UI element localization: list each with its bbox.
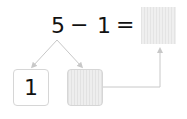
equals-sign: = <box>116 14 134 36</box>
operand-one: 1 <box>97 15 111 37</box>
left-part-value: 1 <box>14 70 48 106</box>
left-part-box: 1 <box>13 69 49 106</box>
operand-five: 5 <box>51 15 65 37</box>
minus-sign: − <box>70 14 88 36</box>
right-part-answer-box[interactable] <box>67 69 103 106</box>
result-answer-box[interactable] <box>141 7 176 44</box>
